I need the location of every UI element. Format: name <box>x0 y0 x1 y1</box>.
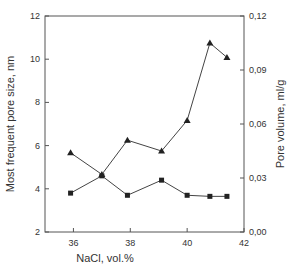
chart-svg: 36384042 24681012 0,000,030,060,090,12 N… <box>0 0 292 275</box>
y-axis-ticks: 24681012 <box>30 11 49 237</box>
y-tick-label: 10 <box>30 54 40 64</box>
y2-tick-label: 0,00 <box>249 227 267 237</box>
square-marker <box>125 193 130 198</box>
square-marker <box>185 193 190 198</box>
y2-tick-label: 0,03 <box>249 173 267 183</box>
triangle-marker <box>124 137 131 143</box>
y-axis-title: Most frequent pore size, nm <box>4 56 16 192</box>
series-square <box>68 173 229 199</box>
triangle-marker <box>67 149 74 155</box>
series-triangle <box>67 40 230 177</box>
y2-tick-label: 0,12 <box>249 11 267 21</box>
x-tick-label: 40 <box>182 238 192 248</box>
series-layer <box>67 40 230 199</box>
y-tick-label: 6 <box>35 141 40 151</box>
x-tick-label: 38 <box>125 238 135 248</box>
square-marker <box>224 194 229 199</box>
series-line <box>71 43 227 174</box>
x-tick-label: 36 <box>68 238 78 248</box>
triangle-marker <box>206 40 213 46</box>
square-marker <box>68 191 73 196</box>
series-line <box>71 176 227 197</box>
y-tick-label: 12 <box>30 11 40 21</box>
x-tick-label: 42 <box>239 238 249 248</box>
x-axis-title: NaCl, vol.% <box>76 252 134 264</box>
plot-frame <box>45 16 244 232</box>
y-tick-label: 8 <box>35 97 40 107</box>
chart-container: 36384042 24681012 0,000,030,060,090,12 N… <box>0 0 292 275</box>
y2-axis-title: Pore volume, ml/g <box>274 80 286 169</box>
square-marker <box>159 178 164 183</box>
y2-tick-label: 0,06 <box>249 119 267 129</box>
x-axis-ticks: 36384042 <box>68 228 249 248</box>
y2-tick-label: 0,09 <box>249 65 267 75</box>
square-marker <box>207 194 212 199</box>
y-tick-label: 4 <box>35 184 40 194</box>
y-tick-label: 2 <box>35 227 40 237</box>
triangle-marker <box>184 117 191 123</box>
